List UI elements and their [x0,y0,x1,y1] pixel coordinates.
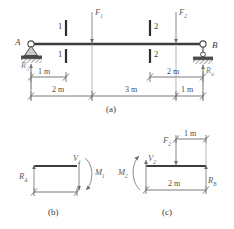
reaction-label-RB: RB [206,67,214,78]
fbd-c-label-F2: F2 [163,136,171,147]
fbd-c-label-M2: M2 [118,168,128,179]
fbd-c-dimension-label-1m: 1 m [184,130,196,138]
dimension-label-1m-left: 1 m [38,68,50,76]
figure-svg [0,0,234,229]
dimension-label-3m-lower: 3 m [125,86,137,94]
fbd-c-label-V2: V2 [148,154,156,165]
fbd-b-label-RA: RA [19,172,27,183]
section-label-2-bottom: 2 [154,50,158,59]
section-label-1-top: 1 [58,22,62,31]
point-label-B: B [212,41,218,50]
point-label-A: A [15,38,21,47]
force-label-F2: F2 [179,8,187,19]
fbd-b-label-V1: V1 [73,154,81,165]
fbd-c-dimension-label-2m: 2 m [168,180,180,188]
fbd-b-moment-arc-M1 [85,158,92,190]
fbd-c-dimension-1m [173,135,209,166]
beam-figure: A B RA RB F1 F2 1 1 2 2 1 m 2 m 2 m 3 m … [0,0,234,229]
section-label-1-bottom: 1 [58,50,62,59]
section-label-2-top: 2 [154,22,158,31]
reaction-label-RA: RA [21,62,29,73]
dimension-label-1m-lower: 1 m [181,86,193,94]
force-label-F1: F1 [95,8,103,19]
fbd-c-moment-arc-M2 [133,156,140,190]
fbd-left-segment [31,166,80,196]
dimension-label-2m-lower: 2 m [52,86,64,94]
panel-label-c: (c) [162,208,172,217]
panel-label-a: (a) [106,105,116,114]
panel-label-b: (b) [48,208,59,217]
fbd-b-label-M1: M1 [95,168,105,179]
dimension-label-2m-right: 2 m [167,68,179,76]
fbd-c-label-RB: RB [208,176,216,187]
